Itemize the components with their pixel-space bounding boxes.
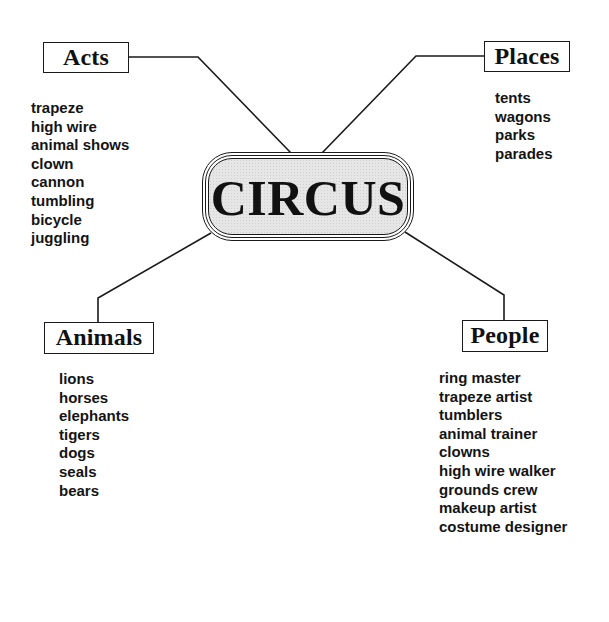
item-list-acts: trapeze high wire animal shows clown can…: [31, 99, 129, 248]
category-label-places: Places: [494, 43, 559, 69]
list-item: parades: [495, 145, 553, 164]
list-item: lions: [59, 370, 129, 389]
list-item: tigers: [59, 426, 129, 445]
list-item: tumblers: [439, 406, 567, 425]
list-item: clown: [31, 155, 129, 174]
category-box-animals: Animals: [44, 322, 154, 354]
list-item: parks: [495, 126, 553, 145]
list-item: cannon: [31, 173, 129, 192]
connector-people: [405, 232, 504, 320]
list-item: costume designer: [439, 518, 567, 537]
list-item: trapeze: [31, 99, 129, 118]
center-node-fill: CIRCUS: [208, 158, 408, 235]
list-item: animal shows: [31, 136, 129, 155]
list-item: high wire walker: [439, 462, 567, 481]
connector-places: [322, 56, 484, 153]
category-box-people: People: [462, 320, 548, 352]
list-item: tumbling: [31, 192, 129, 211]
center-node: CIRCUS: [202, 152, 414, 241]
category-label-people: People: [470, 322, 539, 348]
list-item: juggling: [31, 229, 129, 248]
list-item: wagons: [495, 108, 553, 127]
list-item: makeup artist: [439, 499, 567, 518]
list-item: grounds crew: [439, 481, 567, 500]
category-label-animals: Animals: [56, 324, 143, 350]
list-item: dogs: [59, 444, 129, 463]
list-item: animal trainer: [439, 425, 567, 444]
item-list-places: tents wagons parks parades: [495, 89, 553, 163]
list-item: trapeze artist: [439, 388, 567, 407]
list-item: horses: [59, 389, 129, 408]
item-list-people: ring master trapeze artist tumblers anim…: [439, 369, 567, 536]
list-item: bears: [59, 482, 129, 501]
list-item: bicycle: [31, 211, 129, 230]
center-title: CIRCUS: [211, 173, 406, 223]
category-box-places: Places: [484, 41, 570, 72]
list-item: clowns: [439, 443, 567, 462]
list-item: tents: [495, 89, 553, 108]
item-list-animals: lions horses elephants tigers dogs seals…: [59, 370, 129, 500]
center-node-border: CIRCUS: [205, 155, 411, 238]
category-label-acts: Acts: [63, 44, 109, 70]
list-item: elephants: [59, 407, 129, 426]
list-item: seals: [59, 463, 129, 482]
list-item: high wire: [31, 118, 129, 137]
list-item: ring master: [439, 369, 567, 388]
connector-acts: [128, 57, 291, 153]
category-box-acts: Acts: [43, 42, 129, 73]
